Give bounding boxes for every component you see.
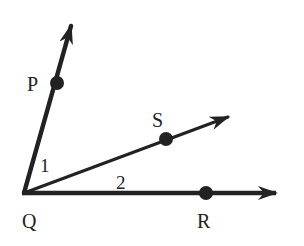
diagram-svg: P S Q R 1 2: [0, 0, 304, 246]
point-p-dot: [50, 76, 64, 90]
label-q: Q: [22, 210, 37, 232]
point-s-dot: [159, 132, 173, 146]
ray-qs: [24, 117, 228, 193]
angle-diagram: P S Q R 1 2: [0, 0, 304, 246]
label-p: P: [27, 73, 38, 95]
angle-1-label: 1: [40, 155, 50, 176]
angle-2-label: 2: [116, 172, 126, 193]
label-r: R: [197, 210, 211, 232]
label-s: S: [152, 109, 163, 131]
point-r-dot: [199, 186, 213, 200]
